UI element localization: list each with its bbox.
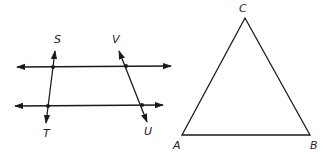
intersection-point <box>140 103 144 107</box>
triangle-ABC: C A B <box>172 2 318 152</box>
transversal-ST <box>46 51 55 123</box>
triangle-outline <box>182 18 310 135</box>
label-V: V <box>112 33 121 46</box>
label-C: C <box>239 2 247 15</box>
label-S: S <box>54 33 61 46</box>
label-B: B <box>310 139 318 152</box>
geometry-diagram: S V T U C A B <box>0 0 323 161</box>
upper-parallel-line <box>17 66 171 67</box>
intersection-point <box>124 64 128 68</box>
intersection-point <box>51 65 55 69</box>
intersection-point <box>46 104 50 108</box>
label-U: U <box>144 125 152 138</box>
transversal-VU <box>119 51 147 122</box>
diagram-svg: S V T U C A B <box>0 0 323 161</box>
label-T: T <box>43 127 51 140</box>
parallel-lines-figure: S V T U <box>15 33 171 140</box>
label-A: A <box>172 139 181 152</box>
